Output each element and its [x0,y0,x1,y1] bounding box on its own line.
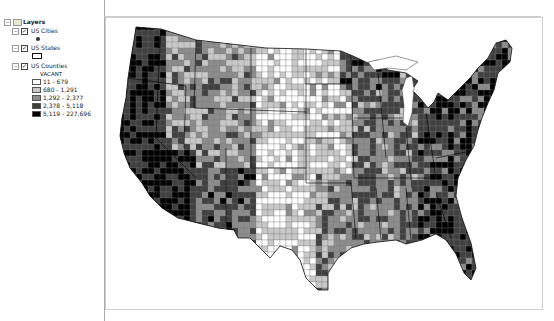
county-polygon [232,294,241,302]
county-polygon [496,162,502,168]
county-polygon [220,240,229,248]
county-polygon [352,174,358,180]
county-polygon [352,288,358,294]
county-polygon [520,258,526,264]
county-polygon [502,204,508,210]
county-polygon [430,90,436,96]
county-polygon [382,294,388,300]
county-polygon [484,66,490,72]
collapse-icon[interactable]: − [4,19,11,26]
county-polygon [460,252,466,258]
county-polygon [322,30,328,36]
county-polygon [268,240,274,246]
county-polygon [424,228,430,234]
county-polygon [154,246,163,254]
county-polygon [520,306,526,309]
county-polygon [286,294,292,300]
county-polygon [460,108,466,114]
county-polygon [478,150,484,156]
county-polygon [466,54,472,60]
county-polygon [418,36,424,42]
county-polygon [532,174,538,180]
collapse-icon[interactable]: − [12,45,19,52]
us-counties-map[interactable] [106,18,542,309]
county-polygon [358,84,364,90]
county-polygon [496,126,502,132]
county-polygon [298,216,304,222]
county-polygon [472,54,478,60]
county-polygon [352,294,358,300]
county-polygon [232,276,241,284]
county-polygon [274,132,280,138]
county-polygon [424,168,430,174]
county-polygon [520,108,526,114]
county-polygon [160,246,169,254]
county-polygon [502,186,508,192]
county-polygon [202,264,211,272]
county-polygon [166,288,175,296]
county-polygon [154,228,163,236]
county-polygon [382,198,388,204]
county-polygon [478,252,484,258]
county-polygon [304,192,310,198]
county-polygon [160,222,169,230]
county-polygon [310,246,316,252]
county-polygon [316,258,322,264]
county-polygon [418,198,424,204]
county-polygon [148,258,157,266]
layer-visibility-checkbox[interactable]: ✓ [21,28,28,35]
county-polygon [112,54,121,62]
county-polygon [124,228,133,236]
county-polygon [274,210,280,216]
county-polygon [196,30,205,38]
county-polygon [502,168,508,174]
county-polygon [460,30,466,36]
county-polygon [412,300,418,306]
county-polygon [328,78,334,84]
county-polygon [526,138,532,144]
county-polygon [460,48,466,54]
county-polygon [268,24,274,30]
county-polygon [496,252,502,258]
county-polygon [340,126,346,132]
collapse-icon[interactable]: − [12,28,19,35]
county-polygon [376,138,382,144]
county-polygon [460,228,466,234]
county-polygon [280,288,286,294]
county-polygon [268,138,274,144]
county-polygon [244,18,253,26]
county-polygon [364,222,370,228]
county-polygon [376,210,382,216]
county-polygon [418,156,424,162]
county-polygon [508,144,514,150]
county-polygon [112,60,121,68]
county-polygon [244,240,253,248]
county-polygon [514,192,520,198]
county-polygon [472,48,478,54]
county-polygon [256,174,262,180]
county-polygon [202,246,211,254]
county-polygon [454,192,460,198]
layer-visibility-checkbox[interactable]: ✓ [21,45,28,52]
county-polygon [106,216,115,224]
map-view[interactable] [105,17,543,310]
county-polygon [514,258,520,264]
county-polygon [256,102,262,108]
county-polygon [460,204,466,210]
county-polygon [364,234,370,240]
county-polygon [394,258,400,264]
county-polygon [166,294,175,302]
county-polygon [376,306,382,309]
layer-visibility-checkbox[interactable]: ✓ [21,63,28,70]
county-polygon [508,240,514,246]
collapse-icon[interactable]: − [12,63,19,70]
county-polygon [424,30,430,36]
county-polygon [502,30,508,36]
county-polygon [508,306,514,309]
county-polygon [208,300,217,308]
county-polygon [400,294,406,300]
county-polygon [538,120,542,126]
county-polygon [328,300,334,306]
county-polygon [520,24,526,30]
county-polygon [280,282,286,288]
